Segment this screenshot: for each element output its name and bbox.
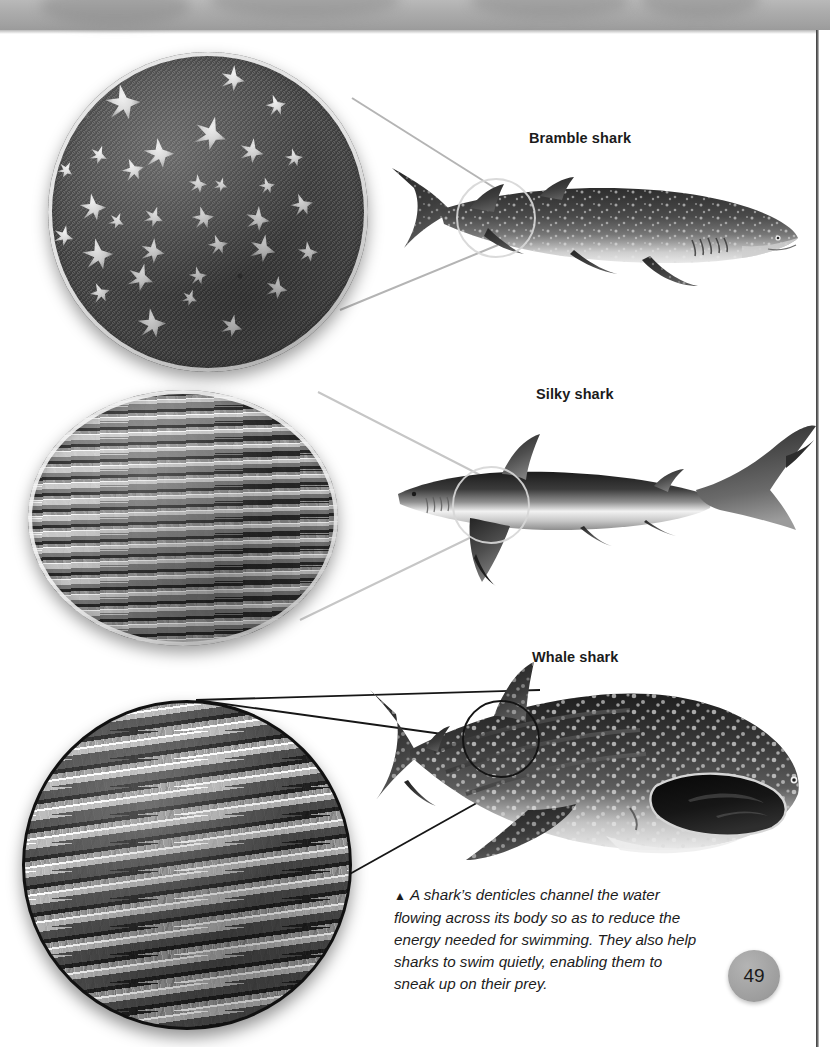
caption-triangle-marker: ▲	[394, 889, 406, 903]
inset-whale-denticles	[22, 700, 352, 1030]
page-number-value: 49	[743, 965, 764, 987]
illustration-whale-shark	[370, 660, 815, 890]
label-whale-shark: Whale shark	[532, 649, 619, 665]
caption-text: A shark’s denticles channel the water fl…	[394, 886, 696, 992]
figure-caption: ▲A shark’s denticles channel the water f…	[394, 884, 704, 995]
book-page: Bramble shark	[0, 0, 830, 1047]
page-number: 49	[728, 950, 780, 1002]
callout-circle-whale	[462, 700, 540, 778]
